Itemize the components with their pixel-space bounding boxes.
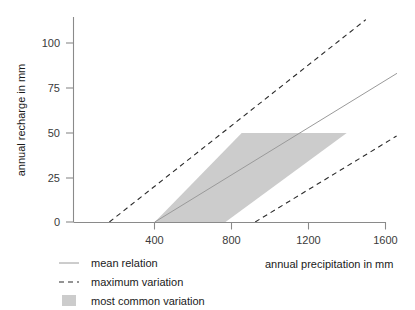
y-tick-label-50: 50: [48, 127, 60, 139]
mean-relation-line: [155, 73, 397, 222]
y-tick-label-25: 25: [48, 172, 60, 184]
legend-label-maximum-variation: maximum variation: [91, 276, 183, 288]
x-tick-label-400: 400: [145, 234, 163, 246]
chart-figure: 100 75 50 25 0 400 800 1200 1600 annual …: [0, 0, 415, 310]
legend-marker-most-common-variation: [62, 295, 76, 306]
legend-label-mean-relation: mean relation: [91, 257, 158, 269]
legend-label-most-common-variation: most common variation: [91, 295, 205, 307]
chart-legend: mean relation maximum variation most com…: [59, 257, 205, 307]
y-tick-label-75: 75: [48, 82, 60, 94]
recharge-precipitation-chart: 100 75 50 25 0 400 800 1200 1600 annual …: [0, 0, 415, 310]
y-tick-label-100: 100: [42, 37, 60, 49]
x-tick-label-1600: 1600: [373, 234, 397, 246]
most-common-variation-band: [155, 133, 347, 222]
x-tick-label-800: 800: [222, 234, 240, 246]
x-axis-title: annual precipitation in mm: [265, 258, 393, 270]
y-axis-title: annual recharge in mm: [15, 64, 27, 177]
y-tick-label-0: 0: [54, 216, 60, 228]
x-tick-label-1200: 1200: [296, 234, 320, 246]
